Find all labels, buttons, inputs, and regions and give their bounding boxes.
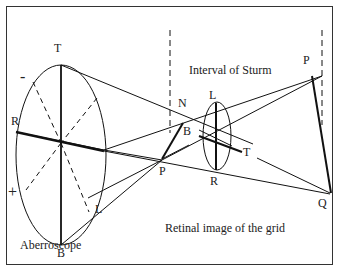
interval-of-sturm-caption: Interval of Sturm: [189, 64, 272, 76]
label-B-mid: B: [183, 125, 191, 137]
label-R-left: R: [11, 115, 19, 127]
label-T-left: T: [54, 42, 61, 54]
label-Q-far: Q: [318, 197, 327, 209]
label-T-right: T: [243, 146, 250, 158]
label-L-left: L: [95, 203, 102, 215]
aberroscope-caption: Aberroscope: [20, 239, 81, 251]
minus-sign: -: [20, 69, 25, 85]
label-R-right: R: [210, 175, 218, 187]
retinal-image-caption: Retinal image of the grid: [165, 222, 285, 234]
label-L-right: L: [209, 89, 216, 101]
label-P-far: P: [303, 54, 310, 66]
plus-sign: +: [8, 184, 17, 200]
label-N: N: [178, 97, 187, 109]
label-P-mid: P: [159, 165, 166, 177]
